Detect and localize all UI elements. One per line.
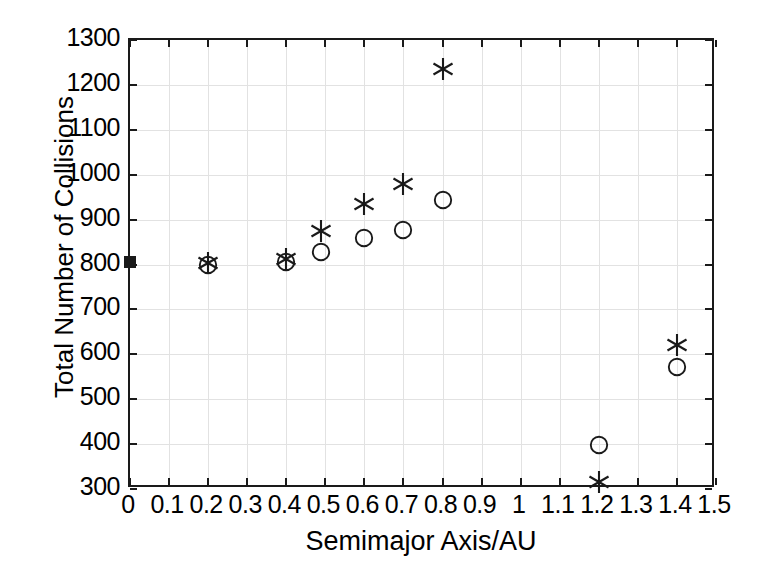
gridline-horizontal: [130, 309, 712, 310]
data-point-asterisk: [309, 219, 333, 243]
y-tick-mark: [705, 174, 712, 176]
y-tick-mark: [130, 443, 137, 445]
gridline-vertical: [677, 40, 678, 485]
gridline-vertical: [286, 40, 287, 485]
x-tick-mark: [207, 478, 209, 485]
x-tick-mark: [715, 40, 717, 47]
gridline-vertical: [443, 40, 444, 485]
gridline-vertical: [638, 40, 639, 485]
x-tick-mark: [598, 478, 600, 485]
x-tick-mark: [324, 478, 326, 485]
y-tick-label: 800: [0, 250, 120, 275]
x-tick-mark: [559, 40, 561, 47]
gridline-horizontal: [130, 354, 712, 355]
y-tick-mark: [130, 308, 137, 310]
y-tick-mark: [705, 219, 712, 221]
y-tick-mark: [130, 264, 137, 266]
y-tick-mark: [705, 308, 712, 310]
x-tick-mark: [402, 478, 404, 485]
gridline-horizontal: [130, 399, 712, 400]
y-tick-mark: [130, 84, 137, 86]
y-tick-label: 900: [0, 205, 120, 230]
x-tick-mark: [246, 478, 248, 485]
gridline-vertical: [403, 40, 404, 485]
data-point-circle: [310, 241, 332, 263]
x-tick-mark: [246, 40, 248, 47]
gridline-vertical: [599, 40, 600, 485]
y-tick-mark: [705, 129, 712, 131]
y-tick-label: 500: [0, 384, 120, 409]
x-tick-mark: [637, 40, 639, 47]
gridline-vertical: [521, 40, 522, 485]
x-axis-tick-labels: 00.10.20.30.40.50.60.70.80.911.11.21.31.…: [128, 492, 714, 524]
x-axis-title: Semimajor Axis/AU: [128, 526, 714, 556]
gridline-horizontal: [130, 85, 712, 86]
y-tick-label: 1100: [0, 115, 120, 140]
y-tick-label: 700: [0, 294, 120, 319]
x-tick-mark: [442, 40, 444, 47]
gridline-horizontal: [130, 444, 712, 445]
x-tick-mark: [481, 40, 483, 47]
x-tick-mark: [129, 40, 131, 47]
x-tick-mark: [168, 40, 170, 47]
x-tick-mark: [442, 478, 444, 485]
x-tick-mark: [363, 478, 365, 485]
gridline-vertical: [169, 40, 170, 485]
gridline-horizontal: [130, 175, 712, 176]
y-tick-label: 1300: [0, 25, 120, 50]
y-tick-label: 1200: [0, 70, 120, 95]
plot-area: [128, 38, 714, 487]
y-tick-mark: [130, 219, 137, 221]
gridline-vertical: [482, 40, 483, 485]
y-tick-mark: [130, 174, 137, 176]
x-tick-mark: [559, 478, 561, 485]
x-tick-mark: [402, 40, 404, 47]
y-tick-mark: [130, 353, 137, 355]
y-tick-mark: [705, 84, 712, 86]
gridline-horizontal: [130, 265, 712, 266]
y-tick-mark: [705, 488, 712, 490]
x-tick-mark: [168, 478, 170, 485]
y-tick-label: 600: [0, 339, 120, 364]
x-tick-mark: [598, 40, 600, 47]
y-tick-mark: [705, 443, 712, 445]
y-tick-mark: [130, 488, 137, 490]
x-tick-mark: [520, 40, 522, 47]
y-tick-mark: [130, 129, 137, 131]
y-tick-label: 400: [0, 429, 120, 454]
x-tick-mark: [520, 478, 522, 485]
y-tick-mark: [705, 398, 712, 400]
y-tick-label: 1000: [0, 160, 120, 185]
y-tick-mark: [130, 39, 137, 41]
gridline-horizontal: [130, 130, 712, 131]
y-tick-mark: [130, 398, 137, 400]
x-tick-mark: [715, 478, 717, 485]
x-tick-mark: [676, 40, 678, 47]
gridline-vertical: [247, 40, 248, 485]
x-tick-label: 1.5: [674, 492, 754, 517]
x-tick-mark: [481, 478, 483, 485]
y-tick-mark: [705, 264, 712, 266]
gridline-vertical: [208, 40, 209, 485]
x-tick-mark: [363, 40, 365, 47]
x-tick-mark: [637, 478, 639, 485]
scatter-plot-figure: Total Number of Collisions Semimajor Axi…: [0, 0, 762, 575]
gridline-vertical: [364, 40, 365, 485]
x-tick-mark: [324, 40, 326, 47]
gridline-vertical: [325, 40, 326, 485]
y-tick-mark: [705, 353, 712, 355]
data-point-square: [121, 253, 139, 271]
x-tick-mark: [207, 40, 209, 47]
x-tick-mark: [285, 478, 287, 485]
gridline-horizontal: [130, 220, 712, 221]
x-tick-mark: [285, 40, 287, 47]
x-tick-mark: [129, 478, 131, 485]
y-tick-mark: [705, 39, 712, 41]
gridline-vertical: [560, 40, 561, 485]
x-tick-mark: [676, 478, 678, 485]
y-axis-tick-labels: 3004005006007008009001000110012001300: [0, 38, 120, 487]
chart-title: [0, 0, 762, 8]
